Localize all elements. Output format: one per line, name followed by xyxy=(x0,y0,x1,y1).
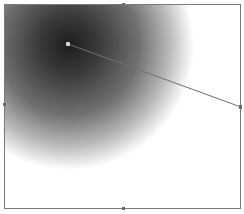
gradient-radius-handle[interactable] xyxy=(239,105,242,108)
radius-line xyxy=(0,0,244,214)
gradient-center-handle[interactable] xyxy=(66,42,70,46)
